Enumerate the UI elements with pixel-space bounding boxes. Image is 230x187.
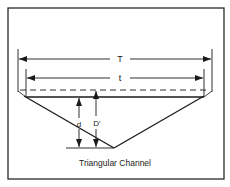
diagram-frame — [8, 8, 224, 179]
label-d: d — [77, 120, 81, 129]
label-t: t — [119, 73, 122, 83]
label-T: T — [117, 54, 123, 64]
triangular-channel-diagram: T t d D' Triangular Channel — [0, 0, 230, 187]
diagram-caption: Triangular Channel — [79, 158, 151, 168]
right-corner-edge — [204, 91, 212, 97]
channel-right-side — [114, 96, 204, 148]
label-D-prime: D' — [93, 119, 101, 128]
